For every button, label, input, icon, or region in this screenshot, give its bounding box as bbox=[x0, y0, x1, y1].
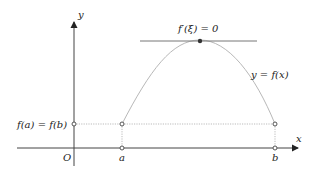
axis-point-b bbox=[273, 146, 277, 150]
a-label: a bbox=[119, 152, 125, 163]
rolle-theorem-diagram: y x O a b f(a) = f(b) y = f(x) f′(ξ) = 0 bbox=[0, 0, 317, 173]
curve-point-a bbox=[120, 122, 124, 126]
x-axis-label: x bbox=[296, 133, 302, 144]
level-label: f(a) = f(b) bbox=[16, 119, 67, 130]
tangent-label: f′(ξ) = 0 bbox=[177, 23, 219, 34]
curve-point-b bbox=[273, 122, 277, 126]
function-curve bbox=[122, 40, 275, 124]
peak-point bbox=[198, 39, 202, 43]
origin-label: O bbox=[63, 152, 71, 163]
b-label: b bbox=[272, 152, 278, 163]
y-axis-label: y bbox=[77, 9, 84, 20]
axis-point-a bbox=[120, 146, 124, 150]
curve-label: y = f(x) bbox=[250, 69, 289, 80]
level-point-yaxis bbox=[72, 122, 76, 126]
